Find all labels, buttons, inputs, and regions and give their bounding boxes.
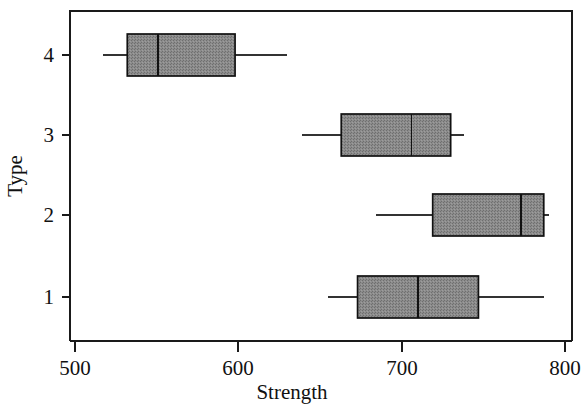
box-type-4 bbox=[127, 34, 235, 76]
x-tick-label-600: 600 bbox=[222, 356, 254, 380]
y-axis-ticks bbox=[62, 55, 70, 297]
y-tick-label-2: 2 bbox=[44, 203, 55, 227]
x-tick-label-700: 700 bbox=[386, 356, 418, 380]
y-tick-label-3: 3 bbox=[44, 123, 55, 147]
x-tick-label-500: 500 bbox=[59, 356, 91, 380]
y-axis-title: Type bbox=[3, 155, 27, 197]
box-type-3 bbox=[341, 114, 450, 156]
y-axis-tick-labels: 4 3 2 1 bbox=[44, 43, 55, 309]
box-series-layer bbox=[103, 34, 549, 318]
box-group-type-3 bbox=[302, 114, 464, 156]
y-tick-label-4: 4 bbox=[44, 43, 55, 67]
y-tick-label-1: 1 bbox=[44, 285, 55, 309]
x-axis-tick-labels: 500 600 700 800 bbox=[59, 356, 581, 380]
box-group-type-1 bbox=[328, 276, 544, 318]
box-group-type-2 bbox=[376, 194, 549, 236]
box-type-2 bbox=[433, 194, 544, 236]
x-tick-label-800: 800 bbox=[549, 356, 581, 380]
box-group-type-4 bbox=[103, 34, 288, 76]
x-axis-title: Strength bbox=[256, 380, 328, 404]
boxplot-chart: 4 3 2 1 Type 500 600 700 800 Strength bbox=[0, 0, 583, 406]
boxplot-canvas: 4 3 2 1 Type 500 600 700 800 Strength bbox=[0, 0, 583, 406]
x-axis-ticks bbox=[75, 341, 565, 352]
